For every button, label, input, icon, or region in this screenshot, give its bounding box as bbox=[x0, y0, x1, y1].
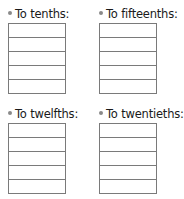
label-text: To twelfths: bbox=[15, 107, 78, 121]
answer-row[interactable] bbox=[9, 138, 65, 152]
label-text: To fifteenths: bbox=[106, 7, 178, 21]
answer-row[interactable] bbox=[100, 66, 156, 80]
answer-row[interactable] bbox=[9, 152, 65, 166]
section-label: To fifteenths: bbox=[99, 7, 178, 21]
answer-table bbox=[8, 23, 66, 94]
answer-row[interactable] bbox=[100, 138, 156, 152]
answer-row[interactable] bbox=[100, 124, 156, 138]
answer-row[interactable] bbox=[100, 152, 156, 166]
section-label: To twentieths: bbox=[99, 107, 184, 121]
answer-row[interactable] bbox=[100, 180, 156, 193]
answer-row[interactable] bbox=[9, 166, 65, 180]
answer-row[interactable] bbox=[9, 180, 65, 193]
answer-row[interactable] bbox=[9, 52, 65, 66]
bullet-icon bbox=[99, 111, 103, 115]
section-label: To twelfths: bbox=[8, 107, 78, 121]
answer-row[interactable] bbox=[9, 66, 65, 80]
answer-row[interactable] bbox=[100, 80, 156, 93]
answer-row[interactable] bbox=[100, 38, 156, 52]
answer-row[interactable] bbox=[100, 52, 156, 66]
bullet-icon bbox=[8, 11, 12, 15]
answer-row[interactable] bbox=[9, 24, 65, 38]
answer-table bbox=[99, 123, 157, 194]
answer-row[interactable] bbox=[100, 24, 156, 38]
label-text: To twentieths: bbox=[106, 107, 184, 121]
answer-row[interactable] bbox=[9, 80, 65, 93]
answer-row[interactable] bbox=[9, 124, 65, 138]
label-text: To tenths: bbox=[15, 7, 69, 21]
bullet-icon bbox=[8, 111, 12, 115]
answer-row[interactable] bbox=[100, 166, 156, 180]
answer-table bbox=[99, 23, 157, 94]
answer-row[interactable] bbox=[9, 38, 65, 52]
answer-table bbox=[8, 123, 66, 194]
bullet-icon bbox=[99, 11, 103, 15]
section-label: To tenths: bbox=[8, 7, 69, 21]
